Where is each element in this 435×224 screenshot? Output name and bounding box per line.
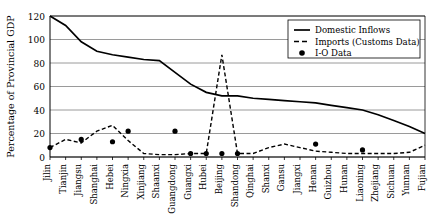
- io-data-point: [204, 151, 209, 156]
- y-tick-label: 100: [28, 35, 45, 45]
- io-data-point: [235, 151, 240, 156]
- x-tick-label: Jilin: [42, 163, 52, 182]
- chart-figure: 020406080100120Percentage of Provincial …: [0, 0, 435, 224]
- x-tick-label: Hunan: [339, 163, 349, 192]
- x-tick-label: Xinjiang: [136, 163, 146, 199]
- x-tick-label: Tianjin: [58, 163, 68, 193]
- io-data-point: [360, 147, 365, 152]
- io-data-point: [313, 141, 318, 146]
- x-tick-label: Ningxia: [120, 164, 130, 198]
- x-tick-label: Shaanxi: [151, 164, 161, 199]
- x-tick-label: Yunnan: [401, 163, 411, 196]
- x-tick-label: Shandong: [230, 163, 240, 207]
- io-data-point: [172, 129, 177, 134]
- x-tick-label: Shanghai: [89, 164, 99, 205]
- legend: Domestic InflowsImports (Customs Data)I-…: [288, 20, 420, 58]
- y-axis-label: Percentage of Provincial GDP: [5, 15, 16, 158]
- y-tick-label: 20: [34, 129, 46, 139]
- chart-canvas: 020406080100120Percentage of Provincial …: [0, 0, 435, 224]
- x-tick-label: Beijing: [214, 163, 224, 194]
- io-data-point: [110, 139, 115, 144]
- x-tick-label: Guizhou: [323, 163, 333, 199]
- y-tick-label: 40: [34, 106, 46, 116]
- x-tick-label: Zhejiang: [370, 163, 380, 201]
- legend-label: I-O Data: [315, 48, 352, 58]
- x-tick-label: Hubei: [198, 164, 208, 190]
- x-tick-label: Shanxi: [261, 164, 271, 194]
- x-tick-label: Jiangsu: [73, 163, 83, 196]
- legend-dot-icon: [299, 50, 305, 56]
- x-tick-label: Hebei: [105, 164, 115, 190]
- x-tick-label: Fujian: [417, 163, 427, 191]
- y-tick-label: 60: [34, 82, 46, 92]
- x-tick-label: Gansu: [276, 163, 286, 191]
- y-axis-ticks: 020406080100120: [28, 12, 45, 163]
- y-tick-label: 80: [34, 59, 46, 69]
- x-tick-label: Sichuan: [386, 163, 396, 198]
- x-tick-label: Guangdong: [167, 163, 177, 213]
- x-tick-label: Qinghai: [245, 164, 255, 198]
- io-data-point: [126, 129, 131, 134]
- x-tick-label: Guangxi: [183, 164, 193, 200]
- x-tick-label: Jiangxi: [292, 164, 302, 195]
- legend-label: Domestic Inflows: [315, 25, 390, 35]
- y-tick-label: 120: [28, 12, 45, 22]
- io-data-point: [79, 137, 84, 142]
- x-tick-label: Liaoning: [355, 163, 365, 201]
- x-tick-label: Henan: [308, 163, 318, 192]
- x-axis-ticks: JilinTianjinJiangsuShanghaiHebeiNingxiaX…: [42, 157, 427, 214]
- legend-label: Imports (Customs Data): [315, 37, 420, 47]
- io-data-point: [219, 151, 224, 156]
- io-data-point: [47, 145, 52, 150]
- io-data-point: [188, 151, 193, 156]
- y-tick-label: 0: [39, 153, 45, 163]
